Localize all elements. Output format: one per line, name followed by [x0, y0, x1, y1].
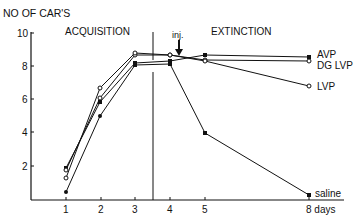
- svg-text:1: 1: [63, 204, 69, 215]
- legend-dglvp: DG LVP: [317, 60, 353, 71]
- svg-text:2: 2: [98, 204, 104, 215]
- series-lines: [66, 53, 309, 195]
- svg-text:6: 6: [22, 94, 28, 105]
- legend-saline: saline: [315, 188, 342, 199]
- svg-text:3: 3: [132, 204, 138, 215]
- chart: NO OF CAR'S 10 8 6 4 2 1 2 3 4 5 8 days …: [0, 0, 356, 224]
- injection-arrow-icon: [175, 40, 183, 56]
- legend-avp: AVP: [317, 49, 337, 60]
- line-avp: [66, 55, 309, 168]
- svg-text:5: 5: [202, 204, 208, 215]
- line-saline: [66, 64, 309, 195]
- legend-lvp: LVP: [317, 81, 335, 92]
- svg-text:2: 2: [22, 161, 28, 172]
- svg-text:8 days: 8 days: [306, 204, 335, 215]
- injection-label: inj.: [172, 30, 184, 40]
- svg-text:4: 4: [22, 127, 28, 138]
- y-axis-label: NO OF CAR'S: [3, 7, 70, 19]
- acquisition-label: ACQUISITION: [65, 26, 130, 37]
- line-lvp: [66, 53, 309, 178]
- extinction-label: EXTINCTION: [211, 26, 272, 37]
- svg-text:4: 4: [167, 204, 173, 215]
- markers: [64, 51, 311, 197]
- svg-text:10: 10: [17, 28, 29, 39]
- svg-text:8: 8: [22, 61, 28, 72]
